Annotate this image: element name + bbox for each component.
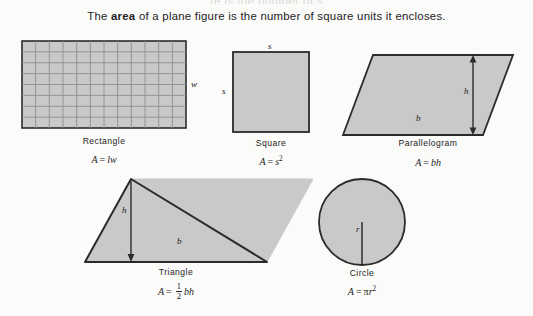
circle-radius-label: r (356, 224, 360, 234)
figure-circle: r Circle A=πr2 (0, 0, 533, 316)
circle-formula-equals: = (354, 286, 364, 297)
circle-formula: A=πr2 (292, 285, 432, 297)
circle-drawing (0, 0, 533, 316)
circle-formula-exponent: 2 (373, 285, 377, 293)
circle-caption: Circle (292, 268, 432, 278)
figure-page: re is the number of s The area of a plan… (0, 0, 533, 316)
